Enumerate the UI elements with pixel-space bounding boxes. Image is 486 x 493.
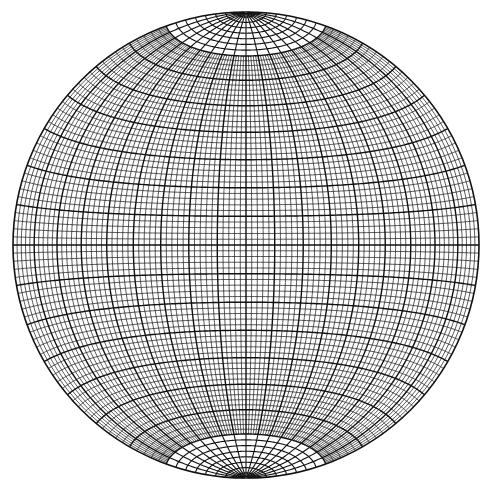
cap-meridian	[234, 434, 246, 477]
cap-meridian	[234, 13, 246, 56]
cap-meridian	[246, 13, 258, 56]
stereonet-graphic	[0, 0, 486, 493]
stereonet	[0, 0, 486, 493]
cap-meridian	[246, 434, 258, 477]
